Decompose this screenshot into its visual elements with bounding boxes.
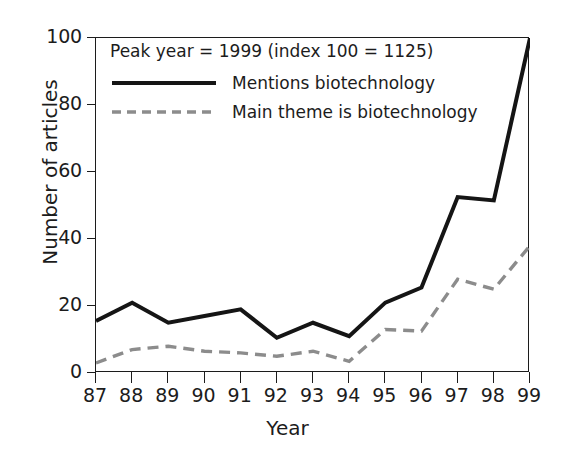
y-tick-label: 40 xyxy=(22,228,82,247)
x-tick-mark xyxy=(276,372,277,383)
x-tick-label: 99 xyxy=(507,386,551,405)
y-tick-label: 80 xyxy=(22,94,82,113)
chart-figure: Number of articles 020406080100 87888990… xyxy=(0,0,575,454)
y-tick-label: 20 xyxy=(22,295,82,314)
legend-label-mentions-biotechnology: Mentions biotechnology xyxy=(218,75,435,92)
x-tick-mark xyxy=(131,372,132,383)
x-tick-mark xyxy=(529,372,530,383)
legend-entry-main-theme-biotechnology: Main theme is biotechnology xyxy=(110,102,450,122)
x-tick-mark xyxy=(167,372,168,383)
y-tick-label: 60 xyxy=(22,161,82,180)
legend-dashed-line-icon xyxy=(110,105,218,119)
chart-legend: Peak year = 1999 (index 100 = 1125) Ment… xyxy=(110,43,450,131)
x-tick-mark xyxy=(348,372,349,383)
y-tick-label: 0 xyxy=(22,362,82,381)
legend-note: Peak year = 1999 (index 100 = 1125) xyxy=(110,43,450,60)
legend-label-main-theme-biotechnology: Main theme is biotechnology xyxy=(218,104,478,121)
x-tick-mark xyxy=(421,372,422,383)
x-tick-mark xyxy=(384,372,385,383)
x-tick-mark xyxy=(493,372,494,383)
x-tick-mark xyxy=(312,372,313,383)
x-axis-title: Year xyxy=(0,416,575,440)
x-tick-mark xyxy=(457,372,458,383)
x-tick-mark xyxy=(240,372,241,383)
x-tick-mark xyxy=(95,372,96,383)
x-tick-mark xyxy=(204,372,205,383)
legend-entry-mentions-biotechnology: Mentions biotechnology xyxy=(110,73,450,93)
legend-solid-line-icon xyxy=(110,76,218,90)
y-tick-label: 100 xyxy=(22,27,82,46)
series-line-main-theme-biotechnology xyxy=(96,246,530,363)
